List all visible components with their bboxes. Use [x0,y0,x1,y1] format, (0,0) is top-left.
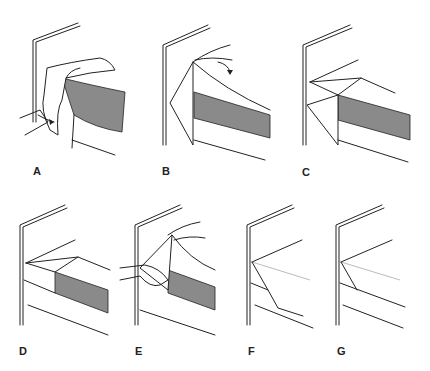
panel-g-illustration [336,205,405,328]
panel-f-illustration [247,205,313,328]
panel-label-d: D [19,345,27,357]
panel-a-illustration [20,23,125,155]
panel-c-illustration [303,25,410,162]
panel-label-e: E [135,345,142,357]
panel-label-b: B [162,165,170,177]
panel-d-illustration [20,205,110,335]
panel-label-f: F [248,345,255,357]
panel-b-illustration [163,25,270,160]
bed-corner-diagram [0,0,430,371]
panel-label-c: C [302,166,310,178]
panel-label-a: A [33,165,41,177]
panel-label-g: G [337,345,346,357]
panel-e-illustration [120,205,215,335]
